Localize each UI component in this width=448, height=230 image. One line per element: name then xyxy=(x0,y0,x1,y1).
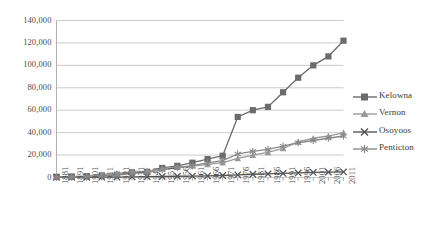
x-axis-tick-label: 1891 xyxy=(75,166,85,183)
x-axis-tick-label: 1961 xyxy=(196,166,206,183)
legend-item-osoyoos: Osoyoos xyxy=(352,121,446,139)
x-axis-tick-label: 1941 xyxy=(151,166,161,183)
legend-label-vernon: Vernon xyxy=(378,107,406,117)
x-axis-tick-label: 2006 xyxy=(332,166,342,183)
y-axis-tick-label: 40,000 xyxy=(28,127,52,137)
population-line-chart: 020,00040,00060,00080,000100,000120,0001… xyxy=(0,0,448,230)
legend-label-osoyoos: Osoyoos xyxy=(378,125,411,135)
legend-label-penticton: Penticton xyxy=(378,142,414,152)
legend-item-vernon: Vernon xyxy=(352,104,446,122)
x-axis-tick-label: 1986 xyxy=(272,166,282,183)
y-axis-tick-label: 0 xyxy=(47,172,51,182)
legend-swatch-cross-icon xyxy=(352,124,378,136)
legend-swatch-asterisk-icon xyxy=(352,141,378,153)
x-axis-tick-label: 1966 xyxy=(211,166,221,183)
y-axis-tick-label: 120,000 xyxy=(23,37,51,47)
chart-legend: Kelowna Vernon Osoyoos Penticton xyxy=(352,86,446,156)
x-axis-tick-label: 1951 xyxy=(166,166,176,183)
x-axis-tick-label: 1976 xyxy=(241,166,251,183)
y-axis-tick-label: 140,000 xyxy=(23,15,51,25)
legend-swatch-square-icon xyxy=(352,89,378,101)
x-axis-tick-label: 2011 xyxy=(347,166,357,183)
legend-item-kelowna: Kelowna xyxy=(352,86,446,104)
data-series-layer xyxy=(53,38,347,181)
x-axis-tick-label: 2001 xyxy=(317,166,327,183)
x-axis-tick-label: 1956 xyxy=(181,166,191,183)
legend-label-kelowna: Kelowna xyxy=(378,90,412,100)
x-axis-tick-label: 1921 xyxy=(121,166,131,183)
x-axis-tick-label: 1971 xyxy=(226,166,236,183)
legend-item-penticton: Penticton xyxy=(352,139,446,157)
x-axis-tick-label: 1881 xyxy=(60,166,70,183)
gridlines xyxy=(57,21,344,178)
x-axis-tick-label: 1931 xyxy=(136,166,146,183)
y-axis-tick-label: 100,000 xyxy=(23,59,51,69)
x-axis-tick-label: 1911 xyxy=(105,166,115,183)
y-axis-tick-label: 20,000 xyxy=(28,149,52,159)
legend-swatch-triangle-icon xyxy=(352,106,378,118)
x-axis-tick-label: 1981 xyxy=(256,166,266,183)
x-axis-tick-label: 1996 xyxy=(302,166,312,183)
y-axis-tick-label: 80,000 xyxy=(28,82,52,92)
x-axis-tick-label: 1901 xyxy=(90,166,100,183)
x-axis-tick-label: 1991 xyxy=(287,166,297,183)
y-axis-tick-label: 60,000 xyxy=(28,104,52,114)
